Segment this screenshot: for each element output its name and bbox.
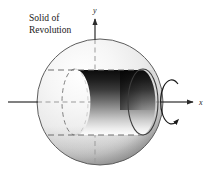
solid-of-revolution-figure: Solid of Revolution y x bbox=[0, 0, 213, 188]
y-axis-label: y bbox=[92, 6, 97, 15]
figure-title-line-2: Revolution bbox=[29, 25, 71, 35]
x-axis-label: x bbox=[198, 98, 203, 107]
figure-canvas: Solid of Revolution y x bbox=[0, 0, 213, 188]
figure-title-line-1: Solid of bbox=[29, 13, 60, 23]
